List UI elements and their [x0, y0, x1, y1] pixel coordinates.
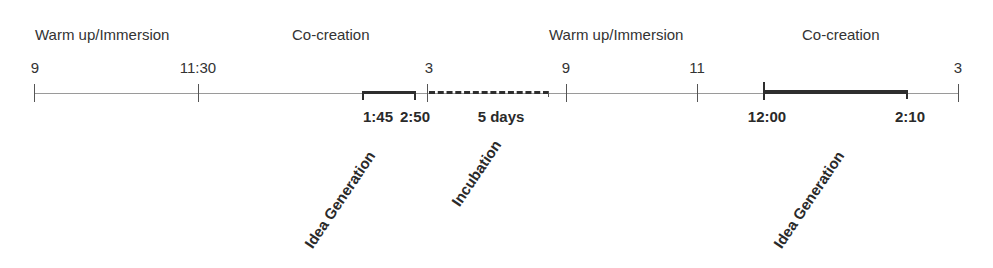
tick-label-9-day2: 9 — [562, 59, 570, 76]
tick-11 — [697, 84, 698, 102]
incubation-dashed-line — [429, 91, 549, 94]
idea-generation-bar-day2 — [763, 90, 908, 94]
tick-label-9-day1: 9 — [31, 59, 39, 76]
rotated-label-idea-generation-day1: Idea Generation — [301, 148, 378, 251]
idea-generation-bar-day1-end — [414, 91, 416, 100]
tick-label-3-day1: 3 — [425, 59, 433, 76]
incubation-end-tick — [548, 91, 549, 97]
rotated-label-incubation: Incubation — [448, 137, 504, 209]
phase-label-warmup-day1: Warm up/Immersion — [35, 26, 169, 43]
tick-1130 — [198, 84, 199, 102]
time-label-1200: 12:00 — [748, 108, 786, 125]
idea-generation-bar-day2-start — [763, 82, 765, 100]
tick-label-1130: 11:30 — [180, 59, 216, 76]
phase-label-warmup-day2: Warm up/Immersion — [549, 26, 683, 43]
phase-label-cocreation-day2: Co-creation — [802, 26, 880, 43]
tick-label-11: 11 — [689, 59, 705, 76]
time-label-210: 2:10 — [895, 108, 925, 125]
tick-label-3-day2: 3 — [954, 59, 962, 76]
idea-generation-bar-day1 — [362, 91, 416, 94]
tick-3-day1 — [427, 84, 428, 102]
phase-label-cocreation-day1: Co-creation — [292, 26, 370, 43]
time-label-145: 1:45 — [363, 108, 393, 125]
idea-generation-bar-day2-end — [906, 90, 908, 99]
tick-9-day1 — [34, 84, 35, 102]
incubation-duration-label: 5 days — [478, 108, 525, 125]
time-label-250: 2:50 — [400, 108, 430, 125]
tick-3-day2 — [958, 84, 959, 102]
rotated-label-idea-generation-day2: Idea Generation — [770, 148, 847, 251]
tick-9-day2 — [566, 84, 567, 102]
idea-generation-bar-day1-start — [362, 91, 364, 100]
